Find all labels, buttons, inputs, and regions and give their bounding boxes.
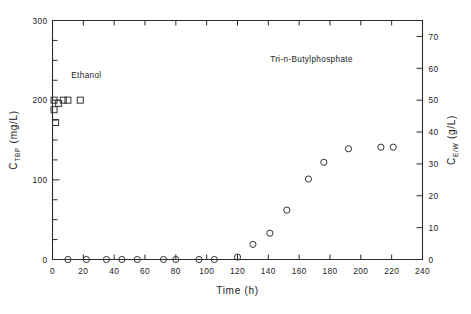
x-tick-label: 200 xyxy=(353,266,368,276)
x-tick-label: 240 xyxy=(415,266,430,276)
x-tick-label: 220 xyxy=(384,266,399,276)
x-tick-label: 160 xyxy=(292,266,307,276)
series-label-2: Tri-n-Butylphosphate xyxy=(270,55,353,64)
series-annotations: EthanolTri-n-Butylphosphate xyxy=(71,55,353,80)
y-axis-left-ticks: 0100200300 xyxy=(32,16,59,265)
x-tick-label: 140 xyxy=(261,266,276,276)
y-right-tick-label: 20 xyxy=(429,191,439,201)
data-point xyxy=(267,230,273,236)
x-tick-label: 120 xyxy=(230,266,245,276)
y-left-tick-label: 300 xyxy=(32,16,47,26)
x-tick-label: 180 xyxy=(322,266,337,276)
x-axis-title: Time (h) xyxy=(216,285,258,296)
y-right-tick-label: 0 xyxy=(429,255,434,265)
data-point xyxy=(390,144,396,150)
series-1-markers xyxy=(51,97,83,125)
data-point xyxy=(378,144,384,150)
series-label-1: Ethanol xyxy=(71,71,101,80)
data-point xyxy=(305,176,311,182)
x-tick-label: 0 xyxy=(50,266,55,276)
x-tick-label: 100 xyxy=(199,266,214,276)
y-right-tick-label: 70 xyxy=(429,32,439,42)
series-2-markers xyxy=(65,144,396,263)
plot-frame xyxy=(53,21,423,260)
y-right-tick-label: 30 xyxy=(429,159,439,169)
chart-container: 020406080100120140160180200220240 010020… xyxy=(0,0,471,314)
data-point xyxy=(321,159,327,165)
data-series-layer xyxy=(51,97,396,262)
y-right-tick-label: 10 xyxy=(429,223,439,233)
y-axis-right-ticks: 010203040506070 xyxy=(417,32,439,265)
x-axis-ticks: 020406080100120140160180200220240 xyxy=(50,21,430,276)
y-left-tick-label: 100 xyxy=(32,175,47,185)
data-point xyxy=(345,146,351,152)
y-right-tick-label: 50 xyxy=(429,95,439,105)
y-left-tick-label: 0 xyxy=(42,255,47,265)
y-right-tick-label: 40 xyxy=(429,127,439,137)
scatter-plot: 020406080100120140160180200220240 010020… xyxy=(0,0,471,314)
data-point xyxy=(77,97,83,103)
x-tick-label: 60 xyxy=(140,266,150,276)
x-tick-label: 80 xyxy=(171,266,181,276)
x-tick-label: 20 xyxy=(78,266,88,276)
y-axis-left-title: CTBP (mg/L) xyxy=(8,110,21,169)
data-point xyxy=(51,107,57,113)
y-right-tick-label: 60 xyxy=(429,64,439,74)
data-point xyxy=(250,241,256,247)
x-tick-label: 40 xyxy=(109,266,119,276)
y-axis-right-title: CE/W (g/L) xyxy=(446,115,459,165)
data-point xyxy=(284,207,290,213)
y-left-tick-label: 200 xyxy=(32,95,47,105)
